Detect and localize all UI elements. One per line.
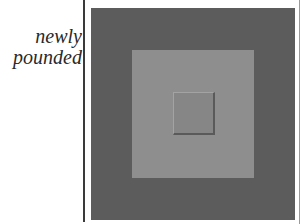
- caption: newly pounded: [0, 26, 82, 68]
- left-divider-line: [83, 0, 85, 222]
- caption-line-2: pounded: [0, 47, 82, 68]
- right-divider-line: [299, 0, 300, 224]
- caption-line-1: newly: [0, 26, 82, 47]
- inner-square: [173, 92, 215, 135]
